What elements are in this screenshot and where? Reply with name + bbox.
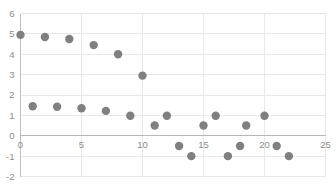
data-point	[242, 121, 250, 129]
data-point	[114, 50, 122, 58]
data-point	[77, 104, 85, 112]
data-point	[285, 152, 293, 160]
data-point	[224, 152, 232, 160]
data-point	[212, 112, 220, 120]
data-point	[41, 33, 49, 41]
data-point	[187, 152, 195, 160]
x-tick-label-20: 20	[259, 139, 270, 150]
data-point	[151, 121, 159, 129]
data-point	[126, 112, 134, 120]
data-point	[175, 142, 183, 150]
x-tick-label-15: 15	[198, 139, 209, 150]
y-tick-label-2: 2	[9, 89, 14, 100]
y-tick-label-6: 6	[9, 8, 14, 19]
x-tick-label-5: 5	[79, 139, 84, 150]
y-tick-label-1: 1	[9, 110, 14, 121]
y-tick-label-0: 0	[9, 130, 14, 141]
y-axis-tick-labels: -2-10123456	[6, 8, 14, 182]
x-axis-tick-labels: 0510152025	[18, 139, 331, 150]
data-point	[90, 41, 98, 49]
data-point	[53, 103, 61, 111]
y-tick-label--1: -1	[6, 151, 14, 162]
data-point	[260, 112, 268, 120]
data-point	[16, 31, 24, 39]
data-point	[273, 142, 281, 150]
data-point	[236, 142, 244, 150]
y-tick-label--2: -2	[6, 171, 14, 182]
data-points	[16, 31, 293, 161]
data-point	[163, 112, 171, 120]
plot-area: -2-10123456 0510152025	[0, 0, 336, 187]
scatter-chart: -2-10123456 0510152025	[0, 0, 336, 187]
data-point	[65, 35, 73, 43]
data-point	[138, 71, 146, 79]
y-tick-label-5: 5	[9, 28, 14, 39]
x-tick-label-25: 25	[320, 139, 331, 150]
data-point	[29, 102, 37, 110]
x-tick-label-0: 0	[18, 139, 23, 150]
x-tick-label-10: 10	[137, 139, 148, 150]
y-tick-label-3: 3	[9, 69, 14, 80]
data-point	[199, 121, 207, 129]
y-tick-label-4: 4	[9, 49, 14, 60]
data-point	[102, 107, 110, 115]
